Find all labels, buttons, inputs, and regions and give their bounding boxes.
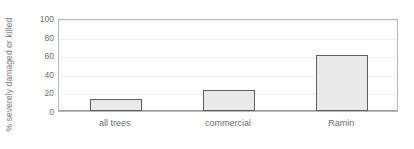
x-tick-label: commercial (205, 118, 251, 128)
y-tick-label: 0 (24, 108, 54, 117)
bar (316, 55, 368, 111)
y-axis-title: % severely damaged or killed (0, 0, 18, 149)
plot-area (58, 19, 398, 112)
bar-chart-figure: % severely damaged or killed 02040608010… (0, 0, 414, 149)
gridline (59, 20, 397, 21)
y-tick-label: 60 (24, 52, 54, 61)
y-tick-label: 100 (24, 15, 54, 24)
bar (90, 99, 142, 111)
bar (203, 90, 255, 111)
y-axis-tick-labels: 020406080100 (24, 19, 54, 112)
y-tick-label: 80 (24, 33, 54, 42)
x-tick-label: all trees (99, 118, 131, 128)
x-tick-label: Ramin (328, 118, 354, 128)
y-tick-label: 40 (24, 71, 54, 80)
plot-inner (59, 20, 397, 111)
y-tick-label: 20 (24, 89, 54, 98)
gridline (59, 39, 397, 40)
x-axis-tick-labels: all treescommercialRamin (58, 118, 398, 134)
